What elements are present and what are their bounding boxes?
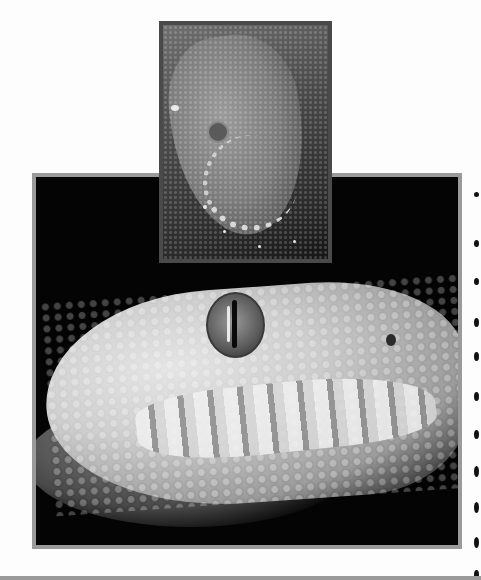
speck	[203, 205, 207, 209]
eye-reflection	[227, 306, 230, 342]
speck	[223, 230, 226, 233]
edge-mark	[474, 240, 479, 247]
edge-mark	[474, 392, 479, 401]
edge-mark	[474, 537, 479, 548]
nostril	[386, 334, 396, 346]
snake-eye	[207, 121, 229, 143]
page-bottom-edge	[0, 576, 481, 580]
edge-mark	[474, 278, 479, 285]
photo-small-content	[163, 25, 328, 259]
edge-mark	[474, 466, 479, 477]
speck	[258, 245, 261, 248]
slit-pupil	[232, 300, 237, 348]
edge-mark	[474, 430, 479, 439]
speck	[171, 105, 179, 111]
speck	[293, 240, 296, 243]
snake-eye	[206, 292, 265, 358]
dark-snake-photo	[159, 21, 332, 263]
edge-mark	[474, 192, 479, 197]
edge-mark	[474, 352, 479, 361]
edge-mark	[474, 502, 479, 513]
edge-mark	[474, 318, 479, 327]
